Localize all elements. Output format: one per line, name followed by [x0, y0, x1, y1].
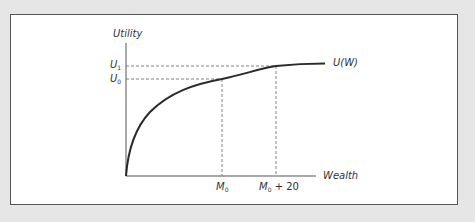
m0-sub: 0 [225, 186, 229, 193]
m0-tick-label: M0 [216, 182, 228, 193]
u0-sub: 0 [117, 78, 121, 85]
utility-diagram [0, 0, 475, 222]
x-axis-label: Wealth [323, 171, 358, 181]
u0-tick-label: U0 [110, 74, 121, 85]
u1-sub: 1 [117, 64, 121, 71]
utility-curve [126, 64, 325, 177]
curve-label: U(W) [333, 58, 358, 68]
m0-plus-20-tick-label: M0 + 20 [259, 182, 299, 193]
m0-plus-20-suffix: + 20 [271, 181, 298, 192]
m0-base: M [216, 181, 225, 192]
y-axis-label: Utility [113, 29, 142, 39]
u1-tick-label: U1 [110, 60, 121, 71]
m0-plus-20-base: M [259, 181, 268, 192]
